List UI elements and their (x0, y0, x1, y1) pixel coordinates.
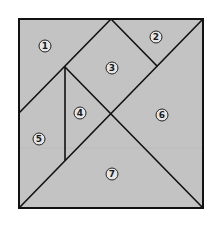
piece-label-1: 1 (39, 40, 51, 52)
label-number: 4 (77, 108, 83, 118)
piece-label-2: 2 (150, 31, 162, 43)
tangram-diagram: 1234567 (0, 0, 220, 225)
label-number: 7 (109, 169, 115, 179)
label-number: 5 (36, 134, 42, 144)
piece-label-3: 3 (106, 62, 118, 74)
label-number: 1 (42, 41, 48, 51)
piece-label-6: 6 (156, 109, 168, 121)
piece-label-7: 7 (106, 168, 118, 180)
label-number: 6 (159, 110, 165, 120)
tangram-svg: 1234567 (0, 0, 220, 225)
label-number: 3 (109, 63, 115, 73)
piece-label-5: 5 (33, 133, 45, 145)
label-number: 2 (153, 32, 159, 42)
piece-label-4: 4 (74, 107, 86, 119)
